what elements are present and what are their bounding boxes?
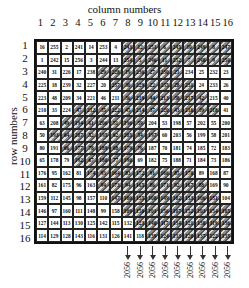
arrow-down-icon xyxy=(162,255,168,260)
matrix-cell: 79 xyxy=(61,154,73,167)
matrix-cell: 208 xyxy=(48,116,60,129)
matrix-cell: 109 xyxy=(122,204,134,217)
column-sum-arrow: 2056 xyxy=(184,246,197,288)
matrix-cell: 11 xyxy=(159,54,171,67)
matrix-cell: 107 xyxy=(171,204,183,217)
matrix-cell: 239 xyxy=(61,79,73,92)
matrix-cell: 182 xyxy=(146,154,158,167)
matrix-cell: 220 xyxy=(159,104,171,117)
row-number: 5 xyxy=(17,90,33,103)
matrix-cell: 232 xyxy=(208,66,220,79)
arrow-shaft xyxy=(202,246,203,255)
matrix-cell: 143 xyxy=(73,229,85,242)
column-sum-arrow: 2056 xyxy=(134,246,147,288)
matrix-cell: 230 xyxy=(159,66,171,79)
matrix-cell: 22 xyxy=(146,79,158,92)
column-sum-label: 2056 xyxy=(148,262,157,278)
column-number: 10 xyxy=(147,17,160,31)
row-number: 14 xyxy=(17,206,33,219)
matrix-cell: 33 xyxy=(48,104,60,117)
matrix-cell: 188 xyxy=(171,154,183,167)
matrix-cell: 112 xyxy=(48,192,60,205)
row-number: 1 xyxy=(17,39,33,52)
matrix-cell: 51 xyxy=(110,116,122,129)
matrix-cell: 216 xyxy=(183,104,195,117)
matrix-cell: 13 xyxy=(110,54,122,67)
matrix-cell: 45 xyxy=(122,104,134,117)
matrix-cell: 191 xyxy=(48,142,60,155)
matrix-cell: 128 xyxy=(61,229,73,242)
matrix-cell: 193 xyxy=(48,129,60,142)
matrix-cell: 46 xyxy=(97,91,109,104)
matrix-cell: 219 xyxy=(134,91,146,104)
column-number-labels: 12345678910111213141516 xyxy=(34,17,234,31)
matrix-cell: 91 xyxy=(146,167,158,180)
matrix-cell: 238 xyxy=(85,66,97,79)
matrix-cell: 211 xyxy=(110,91,122,104)
matrix-cell: 121 xyxy=(183,217,195,230)
matrix-cell: 5 xyxy=(134,54,146,67)
matrix-cell: 64 xyxy=(61,129,73,142)
matrix-cell: 251 xyxy=(146,41,158,54)
matrix-cell: 12 xyxy=(134,41,146,54)
matrix-cell: 135 xyxy=(220,229,232,242)
matrix-cell: 10 xyxy=(183,41,195,54)
matrix-cell: 30 xyxy=(122,79,134,92)
matrix-cell: 116 xyxy=(85,229,97,242)
matrix-cell: 136 xyxy=(220,217,232,230)
matrix-cell: 195 xyxy=(97,129,109,142)
matrix-cell: 59 xyxy=(134,116,146,129)
matrix-cell: 227 xyxy=(85,79,97,92)
matrix-cell: 39 xyxy=(195,104,207,117)
row-number: 6 xyxy=(17,103,33,116)
row-number: 15 xyxy=(17,218,33,231)
arrow-down-icon xyxy=(125,255,131,260)
matrix-cell: 127 xyxy=(36,217,48,230)
matrix-cell: 48 xyxy=(48,91,60,104)
matrix-cell: 14 xyxy=(85,41,97,54)
matrix-cell: 178 xyxy=(48,154,60,167)
matrix-cell: 165 xyxy=(134,179,146,192)
column-number: 15 xyxy=(209,17,222,31)
matrix-cell: 237 xyxy=(110,79,122,92)
matrix-cell: 175 xyxy=(61,179,73,192)
matrix-cell: 99 xyxy=(97,204,109,217)
matrix-cell: 66 xyxy=(61,142,73,155)
column-number: 12 xyxy=(172,17,185,31)
matrix-cell: 85 xyxy=(171,167,183,180)
matrix-cell: 172 xyxy=(134,167,146,180)
arrow-shaft xyxy=(227,246,228,255)
arrow-down-icon xyxy=(212,255,218,260)
row-number: 11 xyxy=(17,167,33,180)
matrix-cell: 202 xyxy=(195,116,207,129)
matrix-cell: 92 xyxy=(171,179,183,192)
matrix-cell: 4 xyxy=(110,41,122,54)
column-number: 3 xyxy=(59,17,72,31)
column-number: 8 xyxy=(122,17,135,31)
matrix-cell: 194 xyxy=(73,116,85,129)
row-number: 9 xyxy=(17,142,33,155)
matrix-cell: 114 xyxy=(36,229,48,242)
column-number: 13 xyxy=(184,17,197,31)
matrix-cell: 213 xyxy=(159,91,171,104)
arrow-shaft xyxy=(177,246,178,255)
matrix-cell: 207 xyxy=(73,129,85,142)
matrix-cell: 35 xyxy=(97,104,109,117)
matrix-cell: 81 xyxy=(73,167,85,180)
matrix-cell: 167 xyxy=(183,179,195,192)
matrix-cell: 68 xyxy=(110,142,122,155)
matrix-cell: 218 xyxy=(208,104,220,117)
column-number: 11 xyxy=(159,17,172,31)
matrix-cell: 155 xyxy=(134,192,146,205)
matrix-cell: 104 xyxy=(220,192,232,205)
matrix-cell: 54 xyxy=(134,129,146,142)
matrix-cell: 210 xyxy=(36,104,48,117)
row-number: 16 xyxy=(17,231,33,244)
matrix-cell: 1 xyxy=(36,54,48,67)
matrix-cell: 120 xyxy=(183,229,195,242)
matrix-cell: 31 xyxy=(48,66,60,79)
matrix-cell: 229 xyxy=(134,79,146,92)
matrix-cell: 83 xyxy=(122,167,134,180)
matrix-cell: 32 xyxy=(73,79,85,92)
matrix-cell: 47 xyxy=(73,104,85,117)
